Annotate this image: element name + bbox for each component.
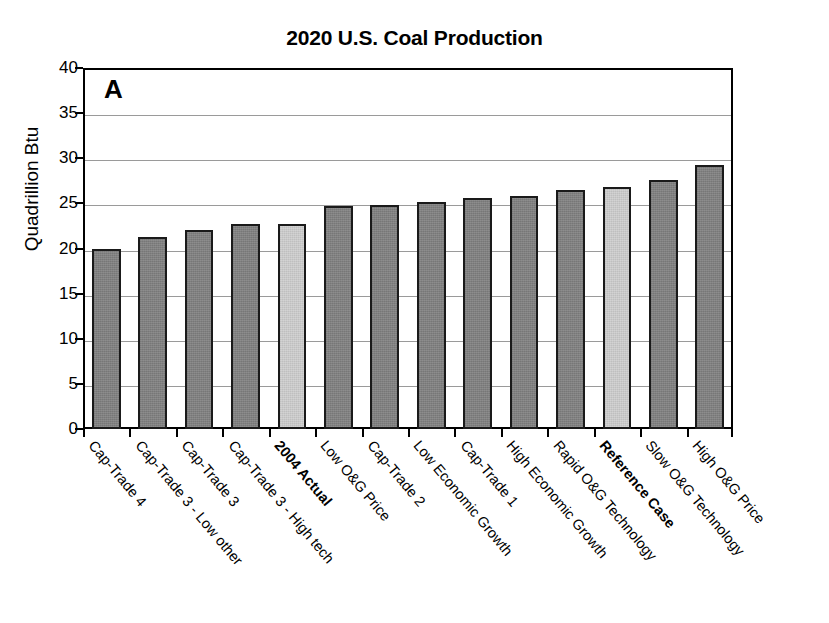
y-tick-label: 10 <box>38 330 78 347</box>
x-tick-mark <box>547 429 549 437</box>
y-tick-mark <box>75 67 83 69</box>
panel-letter: A <box>104 74 123 105</box>
x-tick-mark <box>408 429 410 437</box>
bar <box>324 206 353 429</box>
bar <box>231 224 260 429</box>
y-tick-mark <box>75 157 83 159</box>
y-tick-label: 35 <box>38 104 78 121</box>
x-tick-mark <box>176 429 178 437</box>
bar <box>417 202 446 429</box>
y-tick-mark <box>75 428 83 430</box>
y-tick-mark <box>75 202 83 204</box>
x-tick-mark <box>454 429 456 437</box>
bar <box>649 180 678 429</box>
bar <box>556 190 585 429</box>
x-tick-mark <box>269 429 271 437</box>
bar <box>463 198 492 429</box>
y-tick-label: 5 <box>38 375 78 392</box>
x-tick-mark <box>315 429 317 437</box>
y-tick-mark <box>75 293 83 295</box>
x-tick-mark <box>362 429 364 437</box>
bar <box>278 224 307 429</box>
x-tick-mark <box>594 429 596 437</box>
x-tick-mark <box>129 429 131 437</box>
coal-production-chart-figure: 2020 U.S. Coal Production Quadrillion Bt… <box>0 0 829 623</box>
y-tick-label: 20 <box>38 240 78 257</box>
bar <box>510 196 539 429</box>
x-tick-mark <box>222 429 224 437</box>
y-tick-label: 30 <box>38 149 78 166</box>
y-tick-label: 15 <box>38 285 78 302</box>
y-tick-mark <box>75 248 83 250</box>
bar <box>603 187 632 429</box>
bar <box>695 165 724 429</box>
x-tick-mark <box>640 429 642 437</box>
bar <box>185 230 214 429</box>
y-tick-label: 25 <box>38 194 78 211</box>
bar <box>92 249 121 430</box>
y-tick-label: 40 <box>38 59 78 76</box>
x-tick-mark <box>83 429 85 437</box>
y-tick-mark <box>75 383 83 385</box>
bar <box>370 205 399 429</box>
y-tick-mark <box>75 338 83 340</box>
x-tick-mark <box>731 429 733 437</box>
y-tick-mark <box>75 112 83 114</box>
x-tick-mark <box>687 429 689 437</box>
bar <box>138 237 167 429</box>
x-axis-labels: Cap-Trade 4Cap-Trade 3 - Low otherCap-Tr… <box>83 438 829 623</box>
y-tick-label: 0 <box>38 420 78 437</box>
chart-title: 2020 U.S. Coal Production <box>0 26 829 50</box>
bars-layer <box>83 68 733 429</box>
x-tick-mark <box>501 429 503 437</box>
